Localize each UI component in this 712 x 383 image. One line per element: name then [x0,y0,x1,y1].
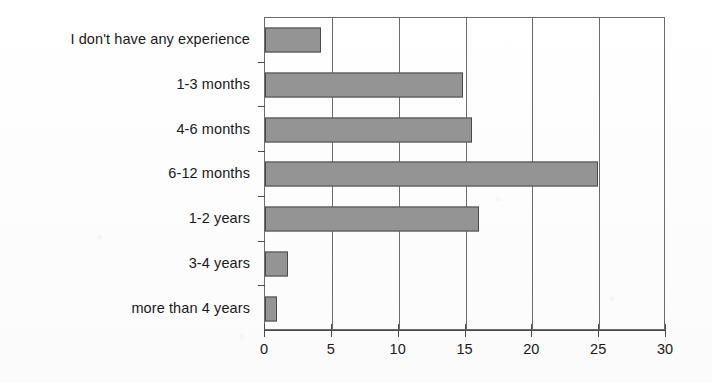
x-axis-tick-label: 25 [590,341,606,357]
y-axis-label: 1-2 years [189,196,250,241]
bar [265,73,463,98]
x-axis-tick [264,324,265,337]
bar [265,162,598,187]
y-axis-tick [258,106,265,107]
x-axis-tick-label: 30 [657,341,673,357]
x-axis-tick [531,324,532,337]
bar-row [265,18,664,63]
bar [265,28,321,53]
bar-row [265,197,664,242]
x-axis-tick [465,324,466,337]
x-axis-tick-label: 5 [327,341,335,357]
y-axis-tick [258,62,265,63]
x-axis-tick [598,324,599,337]
y-axis-label: 3-4 years [189,241,250,286]
x-axis-tick-label: 20 [523,341,539,357]
y-axis-label: 4-6 months [176,106,250,151]
bar-chart-figure: I don't have any experience1-3 months4-6… [0,0,712,383]
x-axis-tick-label: 15 [456,341,472,357]
bar [265,296,277,321]
plot-area [264,17,665,330]
y-axis-tick [258,241,265,242]
bar [265,117,472,142]
bar [265,207,479,232]
bar-row [265,152,664,197]
bar-row [265,63,664,108]
x-axis-tick-label: 0 [260,341,268,357]
x-axis-tick-label: 10 [390,341,406,357]
y-axis-tick [258,285,265,286]
bar-row [265,107,664,152]
y-axis-label: 6-12 months [168,151,250,196]
x-axis-tick [331,324,332,337]
y-axis-label: I don't have any experience [70,17,250,62]
bar [265,251,288,276]
y-axis-label: more than 4 years [131,285,250,330]
x-axis-tick [665,324,666,337]
y-axis-label: 1-3 months [176,62,250,107]
y-axis-category-labels: I don't have any experience1-3 months4-6… [0,17,258,330]
y-axis-tick [258,151,265,152]
x-axis-tick [398,324,399,337]
bar-row [265,242,664,287]
y-axis-tick [258,196,265,197]
